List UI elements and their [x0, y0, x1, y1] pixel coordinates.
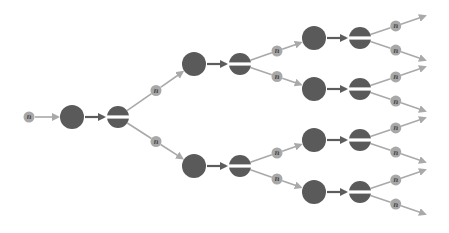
n-label-text: n [393, 123, 398, 132]
cell [302, 180, 326, 204]
cell [302, 26, 326, 50]
branch-line [250, 68, 271, 75]
division-gap [348, 190, 372, 193]
output-arrow [401, 103, 425, 111]
n-label-bubble: n [272, 71, 283, 82]
n-label-text: n [153, 86, 158, 95]
n-label-bubble: n [390, 96, 401, 107]
n-label-text: n [393, 200, 398, 209]
n-label-bubble: n [390, 174, 401, 185]
cell [302, 77, 326, 101]
output-arrow [401, 52, 425, 60]
n-label-text: n [274, 46, 279, 55]
output-arrow [401, 118, 425, 126]
n-label-bubble: n [151, 136, 162, 147]
n-label-bubble: n [272, 174, 283, 185]
n-label-text: n [274, 174, 279, 183]
n-label-text: n [393, 46, 398, 55]
branch-line [127, 94, 151, 111]
n-label-bubble: n [390, 45, 401, 56]
dividing-cell [348, 78, 372, 100]
dividing-cell [348, 181, 372, 203]
n-label-text: n [26, 112, 31, 121]
cell [182, 52, 206, 76]
n-label-text: n [393, 175, 398, 184]
branch-line [127, 123, 151, 139]
dividing-cell [228, 53, 252, 75]
n-label-bubble: n [272, 46, 283, 57]
n-label-text: n [393, 72, 398, 81]
n-label-bubble: n [390, 199, 401, 210]
n-label-bubble: n [272, 148, 283, 159]
output-arrow [401, 154, 425, 162]
n-label-text: n [274, 72, 279, 81]
branch-arrow [282, 145, 301, 152]
branch-arrow [282, 43, 301, 50]
n-label-bubble: n [390, 71, 401, 82]
n-label-bubble: n [151, 85, 162, 96]
output-arrow [401, 170, 425, 178]
nodes-layer: nnnnnnnnnnnnnnn [24, 20, 402, 209]
n-label-text: n [393, 97, 398, 106]
division-gap [348, 138, 372, 141]
n-label-bubble: n [24, 112, 35, 123]
dividing-cell [348, 27, 372, 49]
division-gap [348, 87, 372, 90]
n-label-bubble: n [390, 122, 401, 133]
division-gap [106, 115, 130, 118]
output-line [370, 42, 390, 49]
output-line [370, 144, 390, 151]
output-line [370, 182, 390, 189]
branch-line [250, 155, 271, 163]
dividing-cell [228, 155, 252, 177]
n-label-text: n [393, 21, 398, 30]
output-arrow [401, 67, 425, 75]
cell [302, 128, 326, 152]
branch-arrow [282, 181, 301, 188]
branch-line [250, 53, 271, 61]
dividing-cell [348, 129, 372, 151]
output-line [370, 93, 390, 100]
n-label-bubble: n [390, 20, 401, 31]
output-line [370, 196, 390, 203]
dividing-cell [106, 106, 130, 128]
branch-arrow [161, 144, 183, 158]
cell [182, 154, 206, 178]
division-gap [228, 62, 252, 65]
cell-division-tree-diagram: nnnnnnnnnnnnnnn [0, 0, 449, 233]
output-arrow [401, 206, 425, 214]
division-gap [348, 36, 372, 39]
output-line [370, 79, 390, 86]
n-label-text: n [274, 148, 279, 157]
n-label-text: n [393, 148, 398, 157]
n-label-text: n [153, 137, 158, 146]
output-line [370, 130, 390, 137]
cell [60, 105, 84, 129]
n-label-bubble: n [390, 147, 401, 158]
branch-arrow [161, 72, 183, 87]
branch-line [250, 170, 271, 178]
output-line [370, 28, 390, 35]
division-gap [228, 164, 252, 167]
branch-arrow [282, 78, 301, 84]
output-arrow [401, 16, 425, 24]
